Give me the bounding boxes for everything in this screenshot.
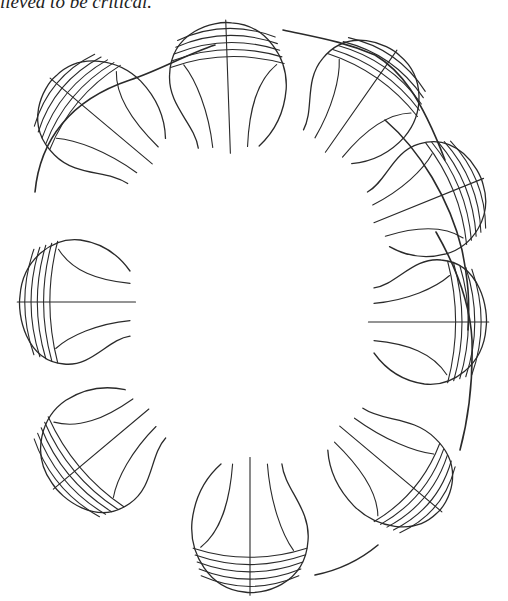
- lobe-inner-curve: [52, 374, 174, 498]
- envelope-top-right: [283, 30, 445, 160]
- lobe-inner-curve: [374, 276, 450, 375]
- lobe-bottom-left: [15, 363, 188, 535]
- lobe-inner-curve: [294, 59, 412, 175]
- lobe-bottom: [192, 458, 308, 596]
- lobe-inner-curve: [56, 249, 130, 348]
- lobe-inner-curve: [201, 464, 294, 550]
- lobe-inner-curve: [316, 400, 434, 518]
- lobe-axis-line: [374, 178, 484, 222]
- lobe-axis-line: [226, 20, 231, 153]
- lobe-ring-diagram: [0, 0, 508, 601]
- lobe-bottom-right: [306, 386, 475, 552]
- lobe-axis-line: [53, 409, 149, 489]
- envelope-right: [385, 120, 469, 330]
- lobe-inner-curve: [56, 70, 178, 192]
- lobe-inner-curve: [184, 62, 280, 149]
- envelope-top-left: [35, 45, 215, 192]
- envelope-bottom: [315, 545, 378, 575]
- lobe-axis-line: [340, 426, 442, 512]
- lobe-group: [14, 18, 505, 595]
- lobe-top-left: [14, 35, 188, 207]
- lobe-left: [17, 240, 135, 365]
- lobe-top: [168, 18, 289, 155]
- lobe-right-upper: [353, 126, 505, 275]
